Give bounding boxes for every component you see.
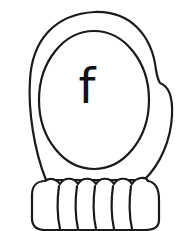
mitten-letter: f (60, 58, 114, 114)
mitten-drawing (0, 0, 192, 231)
